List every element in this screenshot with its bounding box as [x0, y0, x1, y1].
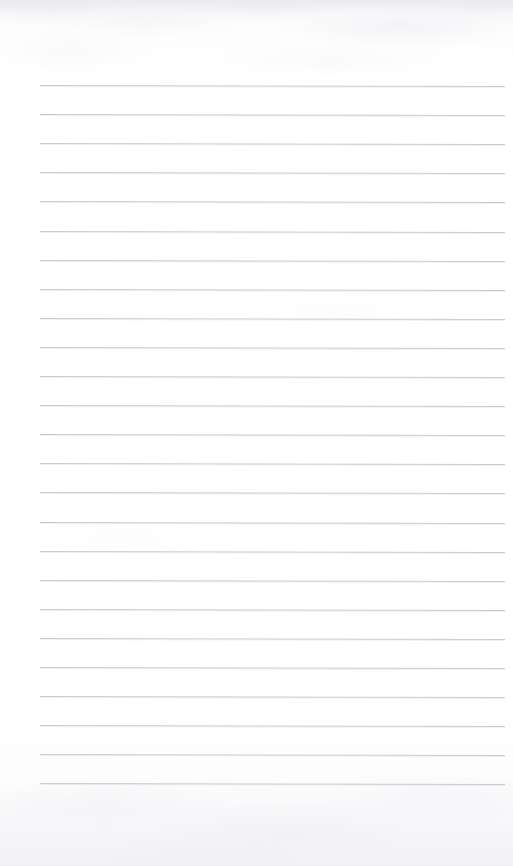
ruled-line: [40, 580, 505, 582]
ruled-line: [40, 85, 505, 87]
ruled-line: [40, 522, 505, 524]
ruled-line: [40, 289, 505, 291]
scanned-page: [0, 0, 513, 866]
ruled-line: [40, 696, 505, 698]
ruled-line: [40, 405, 505, 407]
ruled-line: [40, 463, 505, 465]
ruled-line: [40, 143, 505, 145]
ruled-line: [40, 201, 505, 203]
ruled-line-group: [0, 0, 513, 866]
ruled-line: [40, 754, 505, 756]
ruled-line: [40, 609, 505, 611]
ruled-line: [40, 260, 505, 262]
ruled-line: [40, 551, 505, 553]
ruled-line: [40, 172, 505, 174]
ruled-line: [40, 318, 505, 320]
ruled-line: [40, 347, 505, 349]
ruled-line: [40, 492, 505, 494]
ruled-line: [40, 667, 505, 669]
ruled-line: [40, 376, 505, 378]
ruled-line: [40, 638, 505, 640]
ruled-line: [40, 434, 505, 436]
ruled-line: [40, 783, 505, 785]
ruled-line: [40, 231, 505, 233]
ruled-line: [40, 114, 505, 116]
ruled-line: [40, 725, 505, 727]
